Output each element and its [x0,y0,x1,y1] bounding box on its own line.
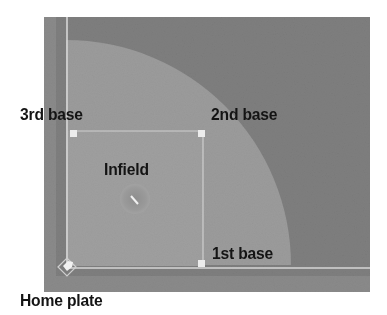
first-base-label: 1st base [212,244,273,264]
second-base-label: 2nd base [211,105,277,125]
left-foul-territory [44,17,56,292]
home-plate-label: Home plate [20,291,102,311]
second-base-icon [198,130,205,137]
bottom-foul-territory [44,276,370,292]
infield-label: Infield [104,160,149,180]
field-illustration [0,0,387,315]
third-base-label: 3rd base [20,105,83,125]
pitchers-mound-icon [120,184,150,214]
third-base-icon [70,130,77,137]
first-base-icon [198,260,205,267]
